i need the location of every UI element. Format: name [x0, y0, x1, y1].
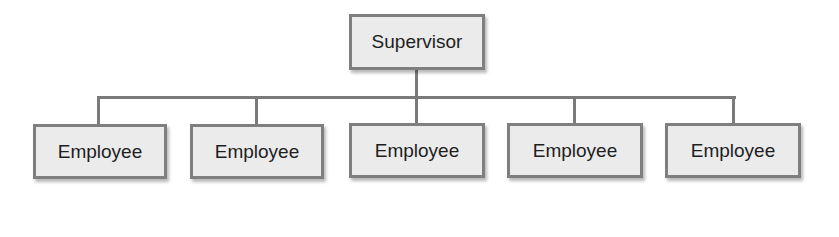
- connector-root-stem: [415, 69, 418, 97]
- connector-child-2: [255, 96, 258, 124]
- employee-label: Employee: [58, 141, 143, 163]
- employee-label: Employee: [691, 140, 776, 162]
- connector-child-1: [97, 96, 100, 124]
- employee-box-2: Employee: [190, 124, 324, 179]
- supervisor-label: Supervisor: [372, 31, 463, 53]
- employee-box-5: Employee: [665, 123, 801, 178]
- supervisor-box: Supervisor: [349, 14, 485, 70]
- employee-box-3: Employee: [349, 123, 485, 178]
- connector-child-4: [573, 96, 576, 124]
- employee-label: Employee: [215, 141, 300, 163]
- connector-child-3: [415, 96, 418, 124]
- connector-child-5: [732, 96, 735, 124]
- employee-label: Employee: [375, 140, 460, 162]
- employee-label: Employee: [533, 140, 618, 162]
- employee-box-1: Employee: [33, 124, 167, 179]
- employee-box-4: Employee: [507, 123, 643, 178]
